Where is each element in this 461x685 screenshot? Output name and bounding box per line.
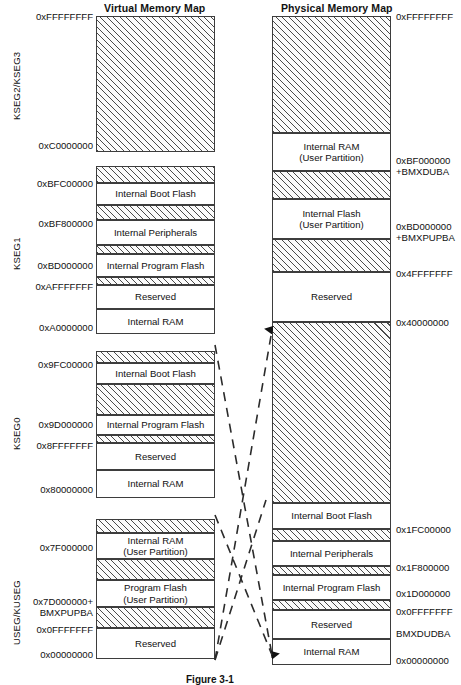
- physical-block-internal-ram-1: Internal RAM(User Partition): [272, 133, 391, 171]
- physical-block-label: Reserved: [311, 619, 352, 631]
- virtual-block-reserved-8: Reserved: [96, 285, 215, 309]
- segment-label-kseg1: KSEG1: [11, 237, 22, 270]
- virtual-block-label: Internal RAM: [128, 478, 184, 490]
- virtual-block-reserved-gap-14: [96, 435, 215, 443]
- segment-label-useg-kuseg: USEG/KUSEG: [11, 580, 22, 645]
- virtual-block-reserved-gap-1: [96, 166, 215, 183]
- virtual-address-label: 0xAFFFFFFF: [35, 281, 93, 292]
- virtual-block-reserved-22: Reserved: [96, 628, 215, 659]
- figure-caption: Figure 3-1: [186, 674, 234, 685]
- physical-address-label: 0xBD000000: [396, 221, 451, 232]
- physical-address-label: 0x1F800000: [396, 562, 449, 573]
- physical-block-internal-peripherals-9: Internal Peripherals: [272, 541, 391, 566]
- virtual-block-sublabel: (User Partition): [123, 546, 188, 558]
- virtual-block-reserved-gap-0: [96, 16, 215, 152]
- virtual-address-label: 0xBF800000: [39, 218, 93, 229]
- virtual-block-sublabel: (User Partition): [123, 594, 188, 606]
- virtual-address-label: 0x0FFFFFFF: [37, 624, 94, 635]
- virtual-block-reserved-gap-17: [96, 519, 215, 533]
- physical-block-reserved-13: Reserved: [272, 610, 391, 639]
- virtual-block-label: Reserved: [135, 451, 176, 463]
- virtual-address-label: 0xFFFFFFFF: [36, 11, 93, 22]
- segment-label-kseg2-kseg3: KSEG2/KSEG3: [11, 52, 22, 120]
- physical-block-reserved-gap-12: [272, 600, 391, 610]
- physical-address-label: 0x00000000: [396, 655, 449, 666]
- virtual-block-internal-boot-flash-11: Internal Boot Flash: [96, 363, 215, 384]
- physical-block-label: Internal RAM: [304, 646, 360, 658]
- physical-block-reserved-gap-8: [272, 529, 391, 541]
- virtual-block-label: Internal Boot Flash: [115, 368, 196, 380]
- virtual-block-internal-ram-9: Internal RAM: [96, 309, 215, 334]
- virtual-block-internal-peripherals-4: Internal Peripherals: [96, 220, 215, 245]
- virtual-block-program-flash-20: Program Flash(User Partition): [96, 580, 215, 607]
- virtual-block-reserved-gap-10: [96, 351, 215, 363]
- connector-kseg-to-physical-low: [215, 345, 272, 655]
- physical-block-internal-ram-14: Internal RAM: [272, 639, 391, 665]
- physical-address-label: +BMXPUPBA: [396, 232, 455, 243]
- virtual-block-label: Reserved: [135, 638, 176, 650]
- virtual-block-label: Internal RAM: [128, 535, 184, 547]
- virtual-block-label: Internal Peripherals: [114, 227, 197, 239]
- connector-kuseg-to-physical-high: [215, 330, 272, 660]
- virtual-memory-map-title: Virtual Memory Map: [104, 2, 205, 14]
- virtual-address-label: 0xC0000000: [39, 140, 93, 151]
- physical-block-reserved-gap-6: [272, 322, 391, 503]
- physical-block-label: Internal Program Flash: [283, 582, 381, 594]
- virtual-address-label: 0x9FC00000: [38, 359, 93, 370]
- physical-block-reserved-gap-10: [272, 566, 391, 575]
- physical-address-label: +BMXDUBA: [396, 166, 449, 177]
- virtual-block-reserved-gap-19: [96, 559, 215, 580]
- physical-block-label: Internal Peripherals: [290, 548, 373, 560]
- physical-block-reserved-5: Reserved: [272, 272, 391, 322]
- virtual-block-internal-program-flash-6: Internal Program Flash: [96, 254, 215, 277]
- physical-block-reserved-gap-2: [272, 171, 391, 199]
- physical-address-label: 0xFFFFFFFF: [396, 11, 453, 22]
- physical-address-label: 0x40000000: [396, 317, 449, 328]
- physical-block-internal-program-flash-11: Internal Program Flash: [272, 575, 391, 600]
- virtual-block-label: Program Flash: [124, 582, 187, 594]
- physical-block-sublabel: (User Partition): [299, 152, 364, 164]
- virtual-block-reserved-gap-12: [96, 384, 215, 415]
- physical-address-label: 0x1D000000: [396, 588, 450, 599]
- virtual-block-internal-boot-flash-2: Internal Boot Flash: [96, 183, 215, 205]
- virtual-block-reserved-gap-21: [96, 607, 215, 628]
- physical-block-internal-boot-flash-7: Internal Boot Flash: [272, 503, 391, 529]
- virtual-block-internal-program-flash-13: Internal Program Flash: [96, 415, 215, 435]
- virtual-address-label: 0x8FFFFFFF: [37, 440, 94, 451]
- physical-address-label: 0x0FFFFFFF: [396, 606, 453, 617]
- physical-block-sublabel: (User Partition): [299, 219, 364, 231]
- physical-block-label: Reserved: [311, 291, 352, 303]
- virtual-block-label: Reserved: [135, 291, 176, 303]
- virtual-address-label: 0xBFC00000: [37, 178, 93, 189]
- virtual-address-label: 0x00000000: [40, 649, 93, 660]
- virtual-block-label: Internal RAM: [128, 316, 184, 328]
- connector-kuseg-lower-edge: [215, 515, 272, 655]
- virtual-address-label: 0x80000000: [40, 484, 93, 495]
- virtual-block-reserved-gap-5: [96, 245, 215, 254]
- virtual-block-reserved-15: Reserved: [96, 443, 215, 470]
- physical-block-label: Internal Boot Flash: [291, 510, 372, 522]
- physical-block-reserved-gap-4: [272, 239, 391, 272]
- connector-kuseg-upper-edge: [215, 500, 266, 660]
- physical-block-reserved-gap-0: [272, 16, 391, 133]
- virtual-address-label: 0x9D000000: [39, 419, 93, 430]
- physical-address-label: BMXDUDBA: [396, 628, 450, 639]
- virtual-address-label: 0xBD000000: [38, 260, 93, 271]
- physical-block-label: Internal RAM: [304, 141, 360, 153]
- physical-block-internal-flash-3: Internal Flash(User Partition): [272, 199, 391, 239]
- physical-memory-map-title: Physical Memory Map: [281, 2, 393, 14]
- virtual-block-label: Internal Program Flash: [107, 419, 205, 431]
- physical-address-label: 0xBF000000: [396, 155, 450, 166]
- virtual-address-label: BMXPUPBA: [40, 607, 93, 618]
- physical-block-label: Internal Flash: [302, 208, 360, 220]
- virtual-address-label: 0xA0000000: [39, 322, 93, 333]
- virtual-block-internal-ram-18: Internal RAM(User Partition): [96, 533, 215, 559]
- virtual-block-internal-ram-16: Internal RAM: [96, 470, 215, 498]
- virtual-address-label: 0x7D000000+: [33, 596, 93, 607]
- virtual-block-reserved-gap-3: [96, 205, 215, 220]
- virtual-block-label: Internal Boot Flash: [115, 188, 196, 200]
- virtual-block-label: Internal Program Flash: [107, 260, 205, 272]
- virtual-block-reserved-gap-7: [96, 277, 215, 285]
